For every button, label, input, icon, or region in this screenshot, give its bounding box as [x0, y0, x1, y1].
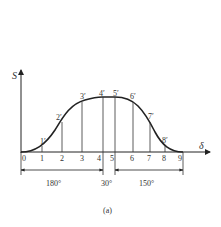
curve-point-2: 2′: [56, 113, 62, 122]
curve-point-7: 7′: [148, 112, 154, 121]
y-axis-label: S: [12, 70, 17, 81]
segment-label-180: 180°: [46, 179, 61, 188]
segment-label-30: 30°: [101, 179, 112, 188]
x-point-6: 6: [130, 154, 134, 163]
x-point-8: 8: [162, 154, 166, 163]
segment-label-150: 150°: [139, 179, 154, 188]
displacement-diagram: S δ 0 1 2 3 4 5 6 7 8 9 1′ 2′ 3′ 4′ 5′ 6…: [0, 0, 221, 227]
x-point-5: 5: [110, 154, 114, 163]
x-point-7: 7: [147, 154, 151, 163]
curve-point-5: 5′: [113, 89, 119, 98]
ordinates: [21, 97, 183, 175]
x-point-0: 0: [22, 154, 26, 163]
x-point-1: 1: [40, 154, 44, 163]
x-point-3: 3: [80, 154, 84, 163]
curve-point-1: 1′: [40, 137, 46, 146]
curve-point-6: 6′: [130, 92, 136, 101]
x-point-2: 2: [60, 154, 64, 163]
curve-point-3: 3′: [80, 92, 86, 101]
figure-caption: (a): [103, 206, 112, 215]
x-point-9: 9: [178, 154, 182, 163]
curve-point-4: 4′: [99, 89, 105, 98]
x-axis-label: δ: [199, 140, 204, 151]
curve-point-8: 8′: [162, 136, 168, 145]
x-point-4: 4: [97, 154, 101, 163]
